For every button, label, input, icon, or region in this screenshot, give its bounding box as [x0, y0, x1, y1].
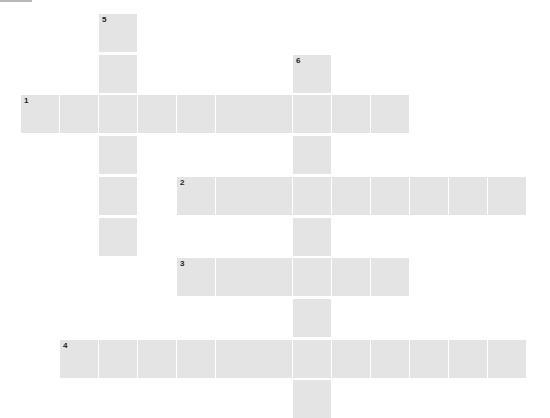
crossword-cell[interactable]: 1 [21, 95, 59, 133]
crossword-cell[interactable] [332, 177, 370, 215]
crossword-cell[interactable] [254, 177, 292, 215]
clue-number: 2 [180, 179, 184, 187]
crossword-cell[interactable] [216, 177, 254, 215]
crossword-cell[interactable]: 3 [177, 258, 215, 296]
crossword-cell[interactable] [177, 340, 215, 378]
crossword-cell[interactable] [99, 218, 137, 256]
crossword-cell[interactable] [293, 299, 331, 337]
crossword-cell[interactable] [99, 55, 137, 93]
top-edge-line [0, 0, 32, 2]
crossword-cell[interactable] [410, 177, 448, 215]
clue-number: 4 [63, 342, 67, 350]
crossword-cell[interactable] [216, 340, 254, 378]
crossword-cell[interactable] [449, 177, 487, 215]
crossword-cell[interactable] [177, 95, 215, 133]
crossword-cell[interactable] [449, 340, 487, 378]
crossword-cell[interactable] [138, 95, 176, 133]
crossword-cell[interactable] [371, 340, 409, 378]
crossword-cell[interactable] [216, 258, 254, 296]
crossword-cell[interactable] [371, 258, 409, 296]
crossword-cell[interactable]: 4 [60, 340, 98, 378]
crossword-cell[interactable] [293, 340, 331, 378]
crossword-cell[interactable] [60, 95, 98, 133]
crossword-cell[interactable] [138, 340, 176, 378]
clue-number: 3 [180, 260, 184, 268]
crossword-cell[interactable] [293, 218, 331, 256]
crossword-cell[interactable]: 6 [293, 55, 331, 93]
crossword-cell[interactable] [99, 136, 137, 174]
crossword-cell[interactable] [99, 340, 137, 378]
crossword-cell[interactable] [254, 95, 292, 133]
crossword-cell[interactable] [293, 136, 331, 174]
crossword-cell[interactable] [99, 177, 137, 215]
crossword-cell[interactable] [216, 95, 254, 133]
crossword-cell[interactable] [410, 340, 448, 378]
crossword-cell[interactable] [254, 340, 292, 378]
crossword-cell[interactable] [293, 177, 331, 215]
crossword-cell[interactable] [332, 258, 370, 296]
crossword-cell[interactable] [488, 340, 526, 378]
crossword-cell[interactable]: 2 [177, 177, 215, 215]
crossword-cell[interactable] [371, 177, 409, 215]
clue-number: 1 [24, 97, 28, 105]
crossword-cell[interactable]: 5 [99, 14, 137, 52]
crossword-cell[interactable] [332, 95, 370, 133]
crossword-cell[interactable] [371, 95, 409, 133]
crossword-cell[interactable] [254, 258, 292, 296]
crossword-cell[interactable] [488, 177, 526, 215]
clue-number: 6 [296, 57, 300, 65]
crossword-cell[interactable] [293, 258, 331, 296]
crossword-cell[interactable] [293, 380, 331, 418]
crossword-cell[interactable] [293, 95, 331, 133]
crossword-cell[interactable] [332, 340, 370, 378]
clue-number: 5 [102, 16, 106, 24]
crossword-cell[interactable] [99, 95, 137, 133]
